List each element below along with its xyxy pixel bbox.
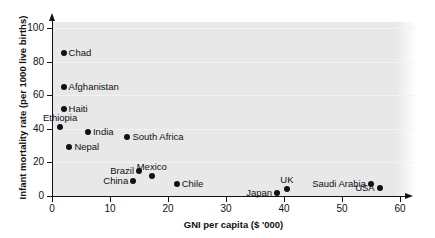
data-point-label: India — [93, 127, 114, 137]
x-axis-tick — [110, 196, 111, 202]
data-point-label: Japan — [246, 188, 272, 198]
x-axis-line — [52, 196, 410, 197]
x-axis-tick — [226, 196, 227, 202]
data-point-label: USA — [355, 183, 375, 193]
gridline-horizontal — [52, 62, 415, 63]
data-point-marker — [61, 50, 67, 56]
x-axis-tick-label: 0 — [37, 203, 67, 214]
data-point-label: Nepal — [74, 142, 99, 152]
x-axis-tick-label: 60 — [385, 203, 415, 214]
y-axis-title: Infant mortality rate (per 1000 live bir… — [17, 15, 28, 200]
x-axis-tick-label: 30 — [211, 203, 241, 214]
gridline-horizontal — [52, 162, 415, 163]
data-point-label: China — [103, 176, 128, 186]
data-point-marker — [61, 106, 67, 112]
x-axis-tick — [284, 196, 285, 202]
y-axis-tick — [47, 95, 53, 96]
y-axis-tick — [47, 62, 53, 63]
data-point-label: UK — [280, 175, 293, 185]
data-point-label: Chad — [69, 48, 92, 58]
y-axis-arrow-icon — [49, 13, 55, 21]
data-point-marker — [174, 181, 180, 187]
y-axis-tick — [47, 28, 53, 29]
x-axis-tick — [400, 196, 401, 202]
x-axis-tick-label: 50 — [327, 203, 357, 214]
data-point-label: Afghanistan — [69, 82, 119, 92]
y-axis-tick — [47, 129, 53, 130]
data-point-label: Ethiopia — [43, 113, 77, 123]
gridline-horizontal — [52, 95, 415, 96]
plot-area-background — [52, 22, 415, 196]
data-point-label: South Africa — [132, 132, 183, 142]
x-axis-arrow-icon — [405, 193, 413, 199]
x-axis-tick — [168, 196, 169, 202]
x-axis-tick-label: 40 — [269, 203, 299, 214]
x-axis-tick — [342, 196, 343, 202]
data-point-label: Mexico — [137, 162, 167, 172]
data-point-marker — [377, 185, 383, 191]
x-axis-tick-label: 20 — [153, 203, 183, 214]
y-axis-tick — [47, 162, 53, 163]
scatter-chart-screenshot: 020406080100 0102030405060 Infant mortal… — [0, 0, 435, 238]
data-point-label: Chile — [182, 179, 204, 189]
y-axis-line — [52, 20, 53, 197]
data-point-marker — [61, 84, 67, 90]
x-axis-tick-label: 10 — [95, 203, 125, 214]
gridline-horizontal — [52, 28, 415, 29]
data-point-marker — [274, 190, 280, 196]
plot-area-background-fade — [395, 22, 417, 196]
data-point-marker — [149, 173, 155, 179]
x-axis-title: GNI per capita ($ '000) — [52, 219, 415, 230]
x-axis-tick — [52, 196, 53, 202]
